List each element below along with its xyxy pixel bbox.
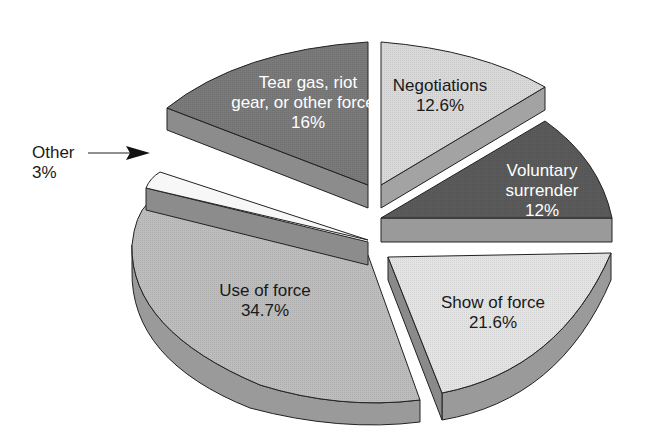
label-other: Other 3% [32, 143, 92, 183]
slice-show-of-force [388, 253, 611, 420]
label-tear-gas: Tear gas, riot gear, or other force 16% [238, 73, 378, 133]
label-voluntary-surrender: Voluntary surrender 12% [492, 161, 592, 221]
label-use-of-force: Use of force 34.7% [200, 281, 330, 321]
label-negotiations: Negotiations 12.6% [385, 76, 495, 116]
pie-chart [0, 0, 651, 443]
label-show-of-force: Show of force 21.6% [428, 293, 558, 333]
other-arrow-icon [88, 146, 150, 160]
